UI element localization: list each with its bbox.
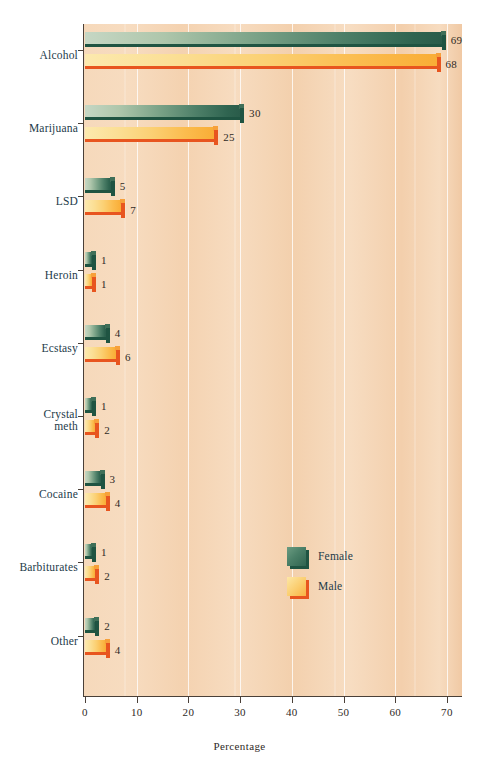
bar-cap xyxy=(95,569,99,584)
gridline-30 xyxy=(240,24,241,696)
x-tick-label-30: 30 xyxy=(220,706,260,718)
bar-cap xyxy=(95,423,99,438)
bar-cap xyxy=(92,277,96,292)
x-tick-label-50: 50 xyxy=(324,706,364,718)
bar-value-barbiturates-male: 2 xyxy=(104,569,110,584)
bar-alcohol-female[interactable] xyxy=(85,32,442,47)
x-tick-50 xyxy=(344,697,345,703)
category-label-line: meth xyxy=(0,420,78,432)
x-tick-0 xyxy=(85,697,86,703)
category-label-lsd: LSD xyxy=(0,195,78,207)
bar-face xyxy=(85,127,214,142)
x-tick-label-70: 70 xyxy=(427,706,467,718)
bar-value-marijuana-female: 30 xyxy=(249,106,261,121)
bar-lsd-female[interactable] xyxy=(85,178,111,193)
y-tick-marijuana xyxy=(78,123,84,124)
bar-other-male[interactable] xyxy=(85,640,106,655)
gridline-20 xyxy=(188,24,189,696)
category-label-ecstasy: Ecstasy xyxy=(0,342,78,354)
gridline-10 xyxy=(137,24,138,696)
bar-crystal_meth-female[interactable] xyxy=(85,398,92,413)
y-tick-alcohol xyxy=(78,50,84,51)
bar-cap xyxy=(92,255,96,270)
x-axis-line xyxy=(83,696,462,697)
bar-value-ecstasy-female: 4 xyxy=(115,326,121,341)
x-tick-70 xyxy=(447,697,448,703)
bar-value-cocaine-male: 4 xyxy=(115,496,121,511)
category-label-alcohol: Alcohol xyxy=(0,49,78,61)
bar-cap xyxy=(116,350,120,365)
legend-swatch-male-icon xyxy=(287,577,306,596)
bar-value-lsd-female: 5 xyxy=(120,179,126,194)
bar-face xyxy=(85,325,106,340)
bar-cocaine-male[interactable] xyxy=(85,493,106,508)
bar-cap xyxy=(92,401,96,416)
category-label-line: Alcohol xyxy=(0,49,78,61)
bar-face xyxy=(85,640,106,655)
x-tick-10 xyxy=(137,697,138,703)
category-label-cocaine: Cocaine xyxy=(0,488,78,500)
bar-value-alcohol-female: 69 xyxy=(451,33,463,48)
bar-barbiturates-male[interactable] xyxy=(85,566,95,581)
category-label-line: Crystal xyxy=(0,408,78,420)
x-tick-label-0: 0 xyxy=(65,706,105,718)
bar-cap xyxy=(92,547,96,562)
bar-other-female[interactable] xyxy=(85,618,95,633)
y-axis-line xyxy=(83,24,84,697)
legend-label-female: Female xyxy=(318,546,353,566)
bar-face xyxy=(85,105,240,120)
x-tick-30 xyxy=(240,697,241,703)
x-tick-label-20: 20 xyxy=(168,706,208,718)
paper-streak xyxy=(234,24,236,696)
y-tick-lsd xyxy=(78,196,84,197)
category-label-line: Heroin xyxy=(0,269,78,281)
bar-value-crystal_meth-female: 1 xyxy=(101,399,107,414)
bar-cap xyxy=(214,130,218,145)
plot-area xyxy=(84,24,462,696)
bar-heroin-male[interactable] xyxy=(85,274,92,289)
y-tick-crystal_meth xyxy=(78,416,84,417)
category-label-line: Cocaine xyxy=(0,488,78,500)
bar-cocaine-female[interactable] xyxy=(85,471,101,486)
bar-chart: 010203040506070 AlcoholMarijuanaLSDHeroi… xyxy=(0,0,479,775)
bar-alcohol-male[interactable] xyxy=(85,54,437,69)
bar-ecstasy-female[interactable] xyxy=(85,325,106,340)
bar-cap xyxy=(106,328,110,343)
y-tick-heroin xyxy=(78,270,84,271)
x-tick-label-60: 60 xyxy=(375,706,415,718)
bar-value-crystal_meth-male: 2 xyxy=(104,423,110,438)
x-tick-60 xyxy=(395,697,396,703)
bar-barbiturates-female[interactable] xyxy=(85,544,92,559)
bar-face xyxy=(85,32,442,47)
bar-value-ecstasy-male: 6 xyxy=(125,350,131,365)
x-tick-label-10: 10 xyxy=(117,706,157,718)
bar-lsd-male[interactable] xyxy=(85,200,121,215)
legend-label-male: Male xyxy=(318,576,342,596)
gridline-50 xyxy=(344,24,345,696)
bar-face xyxy=(85,200,121,215)
bar-heroin-female[interactable] xyxy=(85,252,92,267)
bar-marijuana-female[interactable] xyxy=(85,105,240,120)
category-label-line: Barbiturates xyxy=(0,561,78,573)
bar-face xyxy=(85,178,111,193)
bar-face xyxy=(85,493,106,508)
x-tick-20 xyxy=(188,697,189,703)
bar-value-heroin-female: 1 xyxy=(101,253,107,268)
y-tick-cocaine xyxy=(78,489,84,490)
category-label-heroin: Heroin xyxy=(0,269,78,281)
category-label-line: LSD xyxy=(0,195,78,207)
bar-cap xyxy=(437,57,441,72)
category-label-barbiturates: Barbiturates xyxy=(0,561,78,573)
bar-cap xyxy=(442,35,446,50)
category-label-crystal_meth: Crystalmeth xyxy=(0,408,78,432)
bar-marijuana-male[interactable] xyxy=(85,127,214,142)
bar-cap xyxy=(121,203,125,218)
category-label-line: Marijuana xyxy=(0,122,78,134)
bar-value-cocaine-female: 3 xyxy=(110,472,116,487)
paper-streak xyxy=(414,24,416,696)
bar-ecstasy-male[interactable] xyxy=(85,347,116,362)
bar-cap xyxy=(240,108,244,123)
bar-cap xyxy=(106,496,110,511)
bar-crystal_meth-male[interactable] xyxy=(85,420,95,435)
category-label-marijuana: Marijuana xyxy=(0,122,78,134)
